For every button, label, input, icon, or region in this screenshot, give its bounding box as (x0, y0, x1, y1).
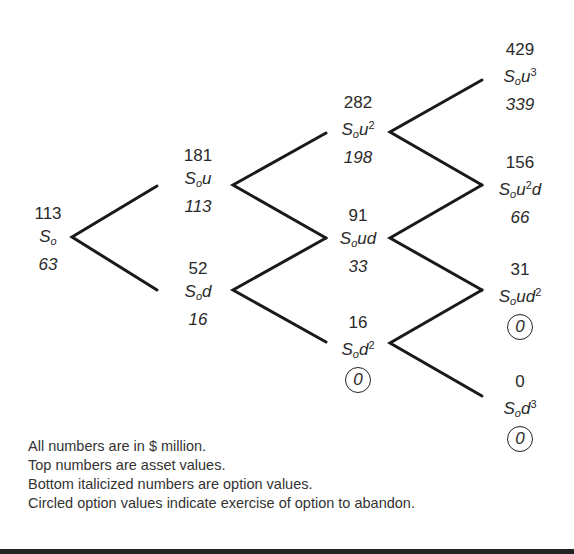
node-label: Sou (158, 167, 238, 195)
diagram-notes: All numbers are in $ million. Top number… (28, 437, 415, 513)
asset-value: 31 (480, 258, 560, 281)
note-circled-values: Circled option values indicate exercise … (28, 494, 415, 513)
note-asset-values: Top numbers are asset values. (28, 456, 415, 475)
option-value-circled: 0 (507, 426, 533, 452)
node-label: Soud2 (480, 281, 560, 313)
asset-value: 429 (480, 38, 560, 61)
tree-node-uu: 282 Sou2 198 (318, 91, 398, 169)
tree-node-u: 181 Sou 113 (158, 144, 238, 218)
tree-node-udd: 31 Soud2 0 (480, 258, 560, 340)
bottom-rule (0, 549, 574, 554)
option-value: 33 (349, 255, 368, 278)
asset-value: 282 (318, 91, 398, 114)
asset-value: 113 (8, 202, 88, 225)
branch-u (233, 133, 326, 238)
tree-node-uuu: 429 Sou3 339 (480, 38, 560, 116)
tree-node-root: 113 So 63 (8, 202, 88, 276)
asset-value: 52 (158, 257, 238, 280)
branch-dd (390, 290, 482, 396)
option-value: 66 (511, 206, 530, 229)
option-value: 339 (506, 93, 534, 116)
node-label: Sod (158, 280, 238, 308)
note-units: All numbers are in $ million. (28, 437, 415, 456)
tree-node-d: 52 Sod 16 (158, 257, 238, 331)
node-label: So (8, 225, 88, 253)
asset-value: 16 (318, 311, 398, 334)
node-label: Sou2 (318, 114, 398, 146)
option-value: 16 (189, 308, 208, 331)
option-value: 63 (39, 253, 58, 276)
note-option-values: Bottom italicized numbers are option val… (28, 475, 415, 494)
tree-node-ud: 91 Soud 33 (318, 204, 398, 278)
branch-ud (390, 185, 482, 290)
asset-value: 0 (480, 370, 560, 393)
tree-node-ddd: 0 Sod3 0 (480, 370, 560, 452)
option-value: 198 (344, 146, 372, 169)
node-label: Sod3 (480, 393, 560, 425)
node-label: Sou3 (480, 61, 560, 93)
option-value-circled: 0 (345, 367, 371, 393)
asset-value: 181 (158, 144, 238, 167)
tree-node-uud: 156 Sou2d 66 (480, 151, 560, 229)
option-value-circled: 0 (507, 314, 533, 340)
node-label: Sou2d (480, 174, 560, 206)
branch-uu (390, 80, 482, 185)
asset-value: 156 (480, 151, 560, 174)
tree-node-dd: 16 Sod2 0 (318, 311, 398, 393)
option-value: 113 (184, 195, 211, 218)
node-label: Soud (318, 227, 398, 255)
branch-d (233, 238, 326, 342)
asset-value: 91 (318, 204, 398, 227)
node-label: Sod2 (318, 334, 398, 366)
